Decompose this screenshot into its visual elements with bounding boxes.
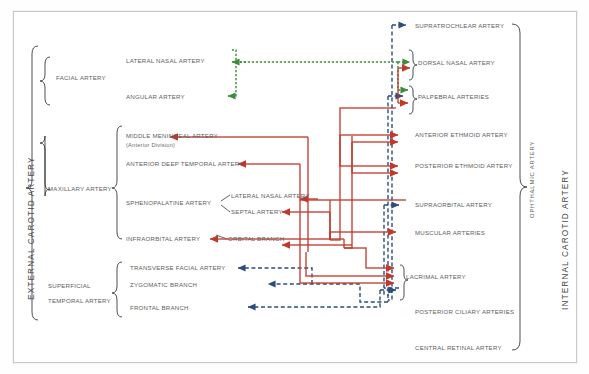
ophthalmic-posterior-ethmoid: POSTERIOR ETHMOID ARTERY	[415, 162, 513, 170]
branch-angular-artery: ANGULAR ARTERY	[126, 93, 185, 101]
branch-middle-meningeal-note: (Anterior Division)	[126, 142, 175, 149]
subbranch-lateral-nasal-sphenopalatine: LATERAL NASAL ARTERY	[231, 192, 310, 200]
brace-superficial-temporal	[112, 262, 122, 317]
brace-palpebral-group	[409, 86, 417, 114]
branch-middle-meningeal: MIDDLE MENINGEAL ARTERY	[126, 132, 218, 140]
ophthalmic-muscular: MUSCULAR ARTERIES	[415, 229, 485, 237]
branch-frontal: FRONTAL BRANCH	[130, 304, 189, 312]
group-facial-artery: FACIAL ARTERY	[56, 74, 106, 82]
anastomosis-diagram: EXTERNAL CAROTID ARTERY FACIAL ARTERY MA…	[0, 0, 589, 374]
ophthalmic-supraorbital: SUPRAORBITAL ARTERY	[415, 201, 492, 209]
ophthalmic-lacrimal: LACRIMAL ARTERY	[406, 273, 466, 281]
arrow-frontal-branch	[248, 290, 380, 307]
brace-maxillary-artery	[40, 126, 122, 239]
branch-zygomatic: ZYGOMATIC BRANCH	[130, 281, 197, 289]
ophthalmic-palpebral: PALPEBRAL ARTERIES	[418, 93, 489, 101]
ophthalmic-anterior-ethmoid: ANTERIOR ETHMOID ARTERY	[415, 131, 508, 139]
internal-carotid-system-label: INTERNAL CAROTID ARTERY	[560, 169, 570, 310]
brace-lacrimal-group	[400, 265, 408, 300]
brace-facial-artery	[40, 57, 50, 105]
ophthalmic-posterior-ciliary: POSTERIOR CILIARY ARTERIES	[415, 308, 514, 316]
branch-transverse-facial: TRANSVERSE FACIAL ARTERY	[130, 264, 226, 272]
ophthalmic-artery-label: OPHTHALMIC ARTERY	[529, 141, 535, 218]
group-superficial-temporal-line2: TEMPORAL ARTERY	[48, 297, 111, 305]
brace-dorsal-nasal-group	[409, 50, 417, 80]
arrow-transverse-facial	[238, 268, 312, 284]
arrow-angular-artery-green	[228, 62, 236, 96]
group-superficial-temporal-line1: SUPERFICIAL	[48, 282, 91, 290]
ophthalmic-central-retinal: CENTRAL RETINAL ARTERY	[415, 344, 502, 352]
group-maxillary-artery: MAXILLARY ARTERY	[48, 185, 112, 193]
branch-sphenopalatine: SPHENOPALATINE ARTERY	[126, 199, 211, 207]
brace-sphenopalatine-subbranches	[221, 195, 230, 212]
subbranch-septal-artery: SEPTAL ARTERY	[231, 208, 283, 216]
branch-lateral-nasal-facial: LATERAL NASAL ARTERY	[126, 57, 205, 65]
ophthalmic-dorsal-nasal: DORSAL NASAL ARTERY	[418, 59, 495, 67]
brace-ophthalmic-artery	[512, 24, 527, 350]
flow-external-to-internal	[170, 68, 410, 283]
subbranch-orbital-branch: ORBITAL BRANCH	[228, 235, 284, 243]
arrow-zygomatic-branch	[268, 284, 388, 302]
flow-bidirectional-green	[228, 50, 410, 96]
branch-anterior-deep-temporal: ANTERIOR DEEP TEMPORAL ARTERY	[126, 160, 244, 168]
external-carotid-system-label: EXTERNAL CAROTID ARTERY	[26, 156, 36, 300]
label-separator: –	[530, 188, 536, 192]
branch-infraorbital: INFRAORBITAL ARTERY	[126, 235, 200, 243]
ophthalmic-supratrochlear: SUPRATROCHLEAR ARTERY	[415, 22, 504, 30]
